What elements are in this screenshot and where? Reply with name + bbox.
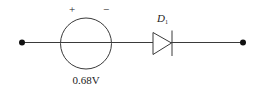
diode: D1 bbox=[153, 12, 172, 56]
diode-label-subscript: 1 bbox=[165, 19, 168, 25]
diode-triangle bbox=[153, 33, 172, 55]
diode-label-main: D bbox=[156, 12, 165, 24]
diode-label: D1 bbox=[156, 12, 168, 25]
voltage-label: 0.68V bbox=[72, 74, 99, 86]
plus-sign: + bbox=[69, 3, 75, 15]
minus-sign: − bbox=[103, 3, 109, 15]
left-terminal-dot bbox=[19, 40, 25, 46]
voltage-source-circle bbox=[61, 18, 112, 69]
right-terminal-dot bbox=[240, 40, 246, 46]
voltage-source: + − 0.68V bbox=[61, 3, 112, 86]
circuit-diagram: + − 0.68V D1 bbox=[0, 0, 257, 91]
